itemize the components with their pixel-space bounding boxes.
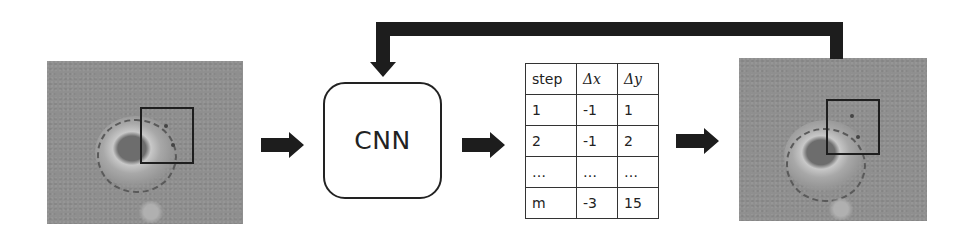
arrow-right-icon	[462, 132, 506, 158]
cnn-block: CNN	[323, 82, 442, 199]
region-of-interest-box	[140, 107, 194, 164]
input-image	[47, 61, 243, 224]
region-of-interest-box	[826, 99, 880, 155]
debris	[137, 201, 165, 223]
table-row: 2 -1 2	[526, 126, 659, 157]
arrow-down-icon	[370, 62, 396, 78]
debris	[827, 198, 855, 220]
header-dx: Δx	[577, 64, 618, 95]
displacement-table: step Δx Δy 1 -1 1 2 -1 2 … … … m -3 15	[525, 63, 659, 219]
table-header-row: step Δx Δy	[526, 64, 659, 95]
cnn-label: CNN	[354, 126, 410, 155]
table-row: m -3 15	[526, 188, 659, 219]
table-row: … … …	[526, 157, 659, 188]
arrow-right-icon	[676, 128, 720, 154]
feedback-vertical-left	[376, 22, 390, 64]
output-image	[739, 58, 927, 221]
feedback-horizontal	[376, 22, 843, 36]
header-step: step	[526, 64, 577, 95]
table-row: 1 -1 1	[526, 95, 659, 126]
header-dy: Δy	[618, 64, 659, 95]
arrow-right-icon	[261, 132, 305, 158]
